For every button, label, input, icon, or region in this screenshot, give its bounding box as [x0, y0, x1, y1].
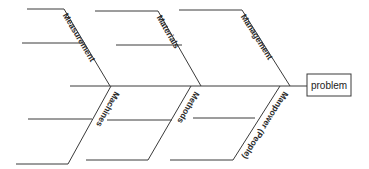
management-label: Management [239, 12, 275, 61]
branch-measurement: Measurement [22, 9, 110, 86]
problem-node: problem [307, 74, 351, 96]
branch-manpower: Manpower (People) [170, 86, 290, 161]
management-bone [179, 10, 290, 86]
manpower-label: Manpower (People) [240, 90, 290, 161]
measurement-label: Measurement [61, 11, 98, 63]
methods-label: Methods [175, 90, 201, 125]
branch-machines: Machines [16, 86, 122, 164]
problem-label: problem [311, 80, 347, 91]
fishbone-diagram: Measurement Materials Management Machine… [0, 0, 369, 169]
branch-materials: Materials [95, 11, 201, 86]
materials-bone [95, 11, 201, 86]
